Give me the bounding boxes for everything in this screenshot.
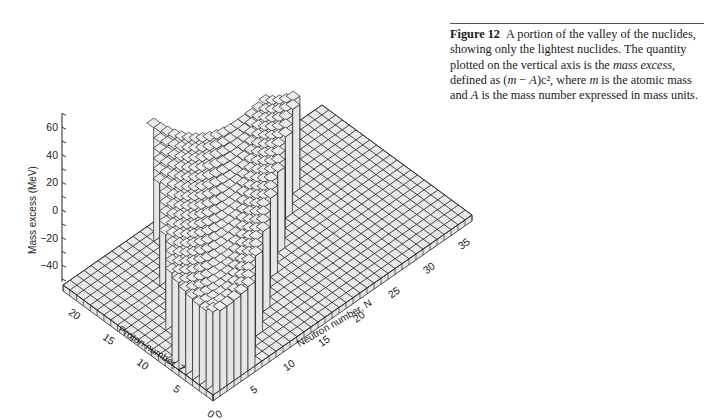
- mass-excess-axis: 6040200−20−40: [40, 113, 66, 281]
- surface-wall: [172, 268, 179, 365]
- mass-excess-tick-label: 40: [46, 149, 58, 161]
- proton-tick-label: 15: [101, 330, 118, 347]
- surface-wall: [193, 294, 200, 380]
- surface-wall: [263, 227, 270, 312]
- surface-plot: 6040200−20−40 05101520253035 05101520 Ma…: [0, 0, 704, 420]
- mass-excess-tick-label: 0: [52, 204, 58, 216]
- surface-wall: [293, 104, 300, 193]
- surface-wall: [270, 193, 277, 277]
- mass-excess-tick: [62, 224, 66, 226]
- surface-wall: [248, 282, 255, 371]
- surface-wall: [179, 278, 186, 370]
- surface-wall: [186, 286, 193, 375]
- mass-excess-tick-label: 20: [46, 176, 58, 188]
- mass-excess-tick: [62, 251, 66, 253]
- surface-wall: [227, 301, 234, 385]
- neutron-tick-label: 25: [385, 284, 402, 301]
- mass-excess-tick: [62, 169, 66, 171]
- surface-wall: [241, 289, 248, 376]
- neutron-tick-label: 35: [455, 235, 472, 252]
- mass-excess-tick-label: 60: [46, 121, 58, 133]
- neutron-tick-label: 30: [420, 259, 437, 276]
- surface-wall: [220, 306, 227, 390]
- mass-excess-tick: [62, 196, 66, 198]
- mass-excess-tick: [62, 141, 66, 143]
- mass-excess-tick-label: −20: [40, 232, 58, 244]
- surface-wall: [213, 307, 220, 395]
- surface-wall: [234, 296, 241, 381]
- mass-excess-tick: [62, 155, 66, 157]
- surface-wall: [199, 300, 206, 385]
- mass-excess-tick: [62, 210, 66, 212]
- neutron-tick-label: 5: [248, 383, 260, 396]
- surface-wall: [256, 251, 263, 336]
- surface-wall: [206, 306, 213, 390]
- mass-excess-tick: [62, 238, 66, 240]
- surface-wall: [285, 132, 292, 218]
- proton-tick-label: 20: [67, 305, 84, 322]
- surface-wall: [278, 167, 285, 252]
- mass-excess-tick: [62, 113, 66, 115]
- mass-excess-tick: [62, 127, 66, 129]
- neutron-tick-label: 10: [280, 357, 297, 374]
- mass-excess-tick-label: −40: [40, 259, 58, 271]
- mass-excess-tick: [62, 182, 66, 184]
- proton-tick-label: 10: [135, 355, 152, 372]
- mass-excess-tick: [62, 265, 66, 267]
- proton-tick-label: 5: [171, 382, 183, 395]
- mass-excess-tick: [62, 279, 66, 281]
- mass-excess-axis-label: Mass excess (MeV): [27, 166, 38, 254]
